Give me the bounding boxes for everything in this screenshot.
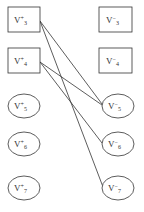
bipartite-diagram: V+3 V+4 V+5 V+6 V+7 V−3 V−4 V−5 V−6 V−7: [0, 0, 144, 212]
left-column: [8, 7, 40, 200]
edges: [40, 21, 103, 187]
edge-l4-r6: [40, 62, 102, 143]
edge-l3-r7: [40, 21, 103, 187]
edge-l3-r5: [40, 21, 102, 104]
edge-l4-r5: [40, 62, 102, 105]
